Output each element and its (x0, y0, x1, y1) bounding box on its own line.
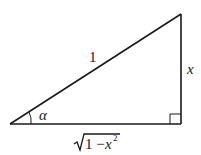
adjacent-label: 1 − x 2 (74, 133, 120, 152)
opposite-label: x (186, 61, 194, 77)
angle-label: α (39, 107, 48, 123)
adjacent-radicand-var: x (104, 136, 112, 152)
hypotenuse-label: 1 (89, 49, 97, 65)
angle-arc (29, 112, 31, 124)
right-triangle-diagram: 1 x α 1 − x 2 (0, 0, 201, 155)
right-angle-marker (170, 114, 181, 124)
adjacent-radicand-exponent: 2 (113, 133, 118, 143)
hypotenuse-line (10, 14, 181, 124)
